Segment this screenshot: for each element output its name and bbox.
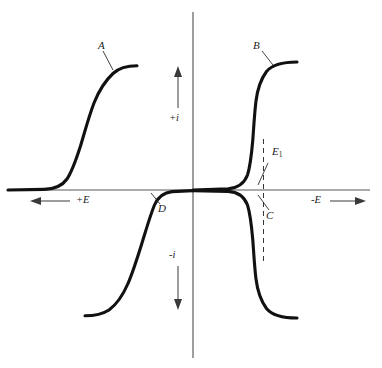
half-wave-symbol: E [272, 145, 279, 157]
axis-label-plus-e: +E [76, 195, 90, 206]
half-wave-leader-line [258, 163, 268, 185]
curve-d-path [85, 191, 193, 316]
direction-arrows-group [30, 66, 366, 310]
curve-b-path [193, 62, 297, 190]
curve-label-d: D [158, 203, 166, 214]
curve-b-leader-line [262, 51, 273, 65]
curve-label-a: A [98, 40, 105, 51]
leader-lines-group [103, 51, 273, 210]
curve-a-path [8, 66, 137, 190]
plus-i-arrow [174, 66, 182, 108]
figure-canvas [0, 0, 382, 368]
half-wave-potential-label: E1 [272, 146, 282, 157]
curve-c-path [193, 191, 297, 318]
minus-i-arrow [174, 266, 182, 310]
curve-label-c: C [266, 210, 273, 221]
curve-a-leader-line [103, 51, 113, 70]
axis-label-plus-i: +i [169, 113, 179, 124]
minus-e-arrow [330, 197, 366, 205]
curve-label-b: B [253, 40, 260, 51]
plus-e-arrow [30, 197, 70, 205]
polarogram-figure: A B C D E1 +i -i +E -E [0, 0, 382, 368]
axis-label-minus-i: -i [169, 250, 175, 261]
axis-label-minus-e: -E [311, 195, 321, 206]
half-wave-subscript: 1 [279, 150, 283, 159]
